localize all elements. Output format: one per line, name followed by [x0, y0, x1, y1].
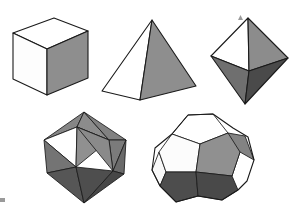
speck-bottom-left-icon: [0, 198, 5, 202]
platonic-solids-figure: [0, 0, 304, 206]
